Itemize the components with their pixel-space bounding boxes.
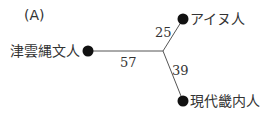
node-label-kinai: 現代畿内人 xyxy=(190,93,260,109)
node-dot-jomon xyxy=(83,46,94,57)
branch-length-jomon: 57 xyxy=(120,55,137,70)
phylogenetic-tree: (A) 津雲縄文人 アイヌ人 現代畿内人 57 25 39 xyxy=(0,0,272,116)
node-dot-kinai xyxy=(178,96,189,107)
branch-length-kinai: 39 xyxy=(172,63,189,78)
panel-label: (A) xyxy=(24,7,45,23)
node-dot-ainu xyxy=(178,14,189,25)
node-label-ainu: アイヌ人 xyxy=(190,11,245,27)
branch-length-ainu: 25 xyxy=(155,25,172,40)
node-label-jomon: 津雲縄文人 xyxy=(10,43,80,59)
